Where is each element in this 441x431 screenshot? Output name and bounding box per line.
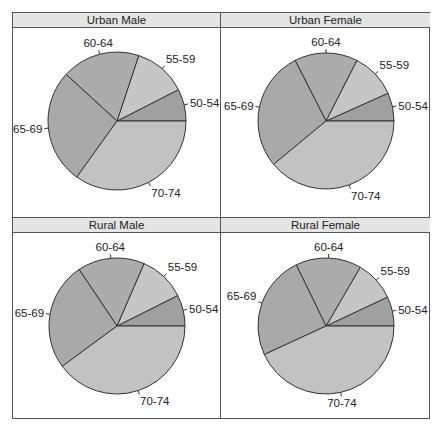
label-tick [376, 277, 379, 280]
slice-label: 55-59 [381, 265, 410, 277]
label-tick [375, 71, 378, 74]
slice-label: 55-59 [168, 261, 197, 273]
panel-rural-male: Rural Male 50-5455-5960-6465-6970-74 [13, 217, 221, 419]
panel-urban-male: Urban Male 50-5455-5960-6465-6970-74 [13, 13, 221, 217]
pie-chart: 50-5455-5960-6465-6970-74 [13, 218, 221, 420]
pie-chart: 50-5455-5960-6465-6970-74 [13, 13, 221, 217]
label-tick [341, 392, 342, 396]
slice-label: 65-69 [227, 290, 256, 302]
slice-label: 60-64 [96, 241, 126, 253]
pie-chart: 50-5455-5960-6465-6970-74 [221, 218, 430, 420]
slice-label: 55-59 [166, 53, 195, 65]
slice-label: 50-54 [398, 304, 428, 316]
label-tick [164, 274, 167, 277]
slice-label: 70-74 [140, 395, 170, 407]
slice-label: 70-74 [327, 397, 357, 409]
slice-label: 60-64 [314, 241, 344, 253]
label-tick [392, 106, 396, 107]
label-tick [255, 106, 259, 107]
slice-label: 55-59 [380, 59, 409, 71]
slice-label: 50-54 [398, 100, 428, 112]
slice-label: 65-69 [13, 123, 42, 135]
pie-chart: 50-5455-5960-6465-6970-74 [221, 13, 430, 217]
slice-label: 70-74 [351, 190, 381, 202]
label-tick [184, 104, 188, 105]
label-tick [349, 185, 350, 189]
label-tick [149, 182, 151, 186]
slice-label: 60-64 [83, 37, 113, 49]
label-tick [258, 302, 262, 303]
slice-label: 50-54 [190, 97, 220, 109]
pie-chart-grid: Urban Male 50-5455-5960-6465-6970-74 Urb… [12, 12, 430, 419]
panel-urban-female: Urban Female 50-5455-5960-6465-6970-74 [221, 13, 430, 217]
label-tick [392, 310, 396, 311]
label-tick [162, 66, 165, 69]
panel-rural-female: Rural Female 50-5455-5960-6465-6970-74 [221, 217, 430, 419]
slice-label: 65-69 [224, 100, 253, 112]
slice-label: 60-64 [311, 36, 341, 48]
slice-label: 70-74 [151, 187, 181, 199]
label-tick [138, 391, 139, 395]
slice-label: 50-54 [189, 303, 219, 315]
label-tick [183, 309, 187, 310]
label-tick [99, 50, 100, 54]
slice-label: 65-69 [15, 307, 44, 319]
label-tick [46, 314, 50, 315]
